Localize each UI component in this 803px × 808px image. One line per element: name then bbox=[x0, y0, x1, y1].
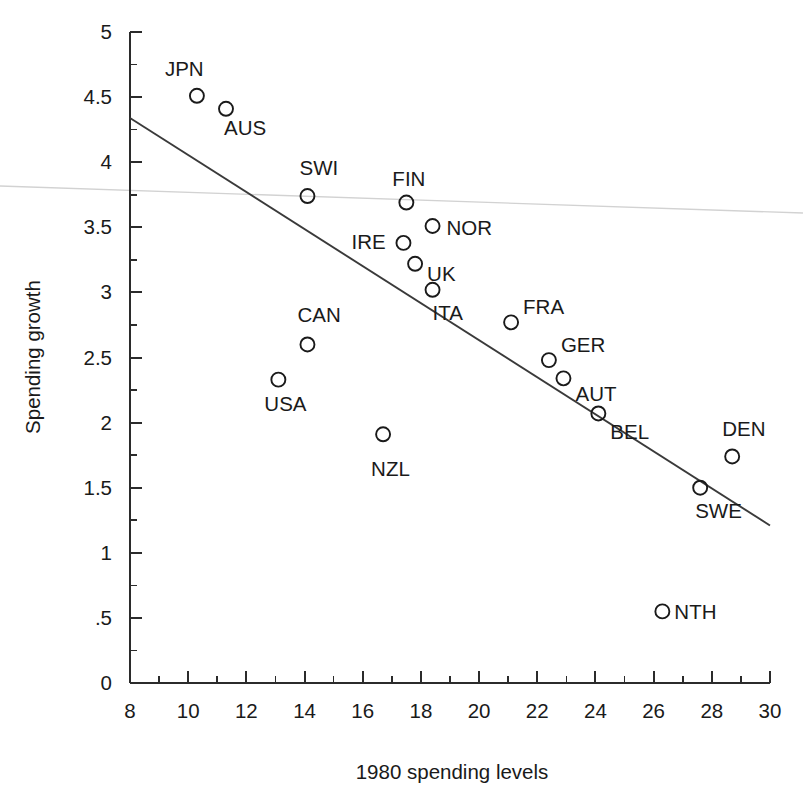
data-point-fin bbox=[399, 196, 413, 210]
data-point-den bbox=[725, 449, 739, 463]
point-label-nth: NTH bbox=[674, 600, 716, 623]
scatter-chart: 810121416182022242628300.511.522.533.544… bbox=[0, 0, 803, 808]
data-point-ger bbox=[542, 353, 556, 367]
y-tick-label: 3 bbox=[101, 280, 112, 303]
y-tick-label: 1.5 bbox=[84, 476, 113, 499]
point-label-aus: AUS bbox=[224, 116, 266, 139]
data-point-usa bbox=[271, 373, 285, 387]
y-axis-title: Spending growth bbox=[21, 280, 44, 434]
x-tick-label: 20 bbox=[468, 699, 491, 722]
data-point-can bbox=[300, 337, 314, 351]
data-point-ire bbox=[396, 236, 410, 250]
data-points-layer bbox=[190, 89, 739, 619]
point-label-ita: ITA bbox=[433, 301, 464, 324]
x-tick-label: 12 bbox=[235, 699, 258, 722]
point-label-swe: SWE bbox=[695, 499, 742, 522]
point-label-ire: IRE bbox=[351, 230, 385, 253]
x-tick-label: 18 bbox=[410, 699, 433, 722]
x-tick-label: 16 bbox=[351, 699, 374, 722]
point-labels-layer: JPNAUSSWIFINNORIREUKITAFRAGERAUTBELDENSW… bbox=[165, 57, 766, 624]
point-label-fin: FIN bbox=[392, 167, 425, 190]
y-tick-label: 1 bbox=[101, 541, 112, 564]
data-point-uk bbox=[408, 257, 422, 271]
x-tick-label: 8 bbox=[124, 699, 135, 722]
y-tick-label: 3.5 bbox=[84, 215, 113, 238]
y-tick-label: 2.5 bbox=[84, 346, 113, 369]
x-tick-label: 10 bbox=[177, 699, 200, 722]
data-point-jpn bbox=[190, 89, 204, 103]
x-tick-label: 28 bbox=[700, 699, 723, 722]
point-label-nor: NOR bbox=[447, 216, 493, 239]
point-label-swi: SWI bbox=[299, 156, 338, 179]
point-label-bel: BEL bbox=[610, 420, 649, 443]
x-tick-label: 14 bbox=[293, 699, 316, 722]
data-point-aus bbox=[219, 102, 233, 116]
plot-canvas: 810121416182022242628300.511.522.533.544… bbox=[0, 0, 803, 808]
point-label-uk: UK bbox=[427, 262, 456, 285]
x-tick-label: 24 bbox=[584, 699, 607, 722]
x-tick-label: 30 bbox=[759, 699, 782, 722]
data-point-nor bbox=[426, 219, 440, 233]
point-label-den: DEN bbox=[722, 417, 765, 440]
y-tick-label: 4.5 bbox=[84, 85, 113, 108]
x-tick-label: 26 bbox=[642, 699, 665, 722]
data-point-aut bbox=[556, 371, 570, 385]
point-label-jpn: JPN bbox=[165, 57, 204, 80]
data-point-fra bbox=[504, 315, 518, 329]
y-tick-label: 2 bbox=[101, 411, 112, 434]
point-label-usa: USA bbox=[264, 392, 306, 415]
data-point-nzl bbox=[376, 427, 390, 441]
x-axis-title: 1980 spending levels bbox=[356, 760, 549, 783]
y-tick-label: 0 bbox=[101, 671, 112, 694]
point-label-aut: AUT bbox=[575, 382, 616, 405]
y-tick-label: .5 bbox=[95, 606, 112, 629]
x-tick-label: 22 bbox=[526, 699, 549, 722]
point-label-can: CAN bbox=[297, 303, 340, 326]
point-label-ger: GER bbox=[561, 333, 605, 356]
scan-artifact-layer bbox=[0, 186, 803, 213]
data-point-nth bbox=[655, 604, 669, 618]
point-label-nzl: NZL bbox=[371, 457, 410, 480]
y-tick-label: 5 bbox=[101, 20, 112, 43]
data-point-swe bbox=[693, 481, 707, 495]
data-point-ita bbox=[426, 283, 440, 297]
y-tick-label: 4 bbox=[101, 150, 112, 173]
scan-artifact bbox=[0, 186, 803, 213]
point-label-fra: FRA bbox=[523, 295, 564, 318]
